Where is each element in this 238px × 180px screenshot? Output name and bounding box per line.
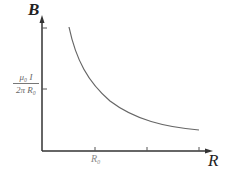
y-axis-arrow-icon	[40, 15, 45, 23]
x-tick-label-r0: R₀	[91, 153, 101, 164]
y-axis-label: B	[28, 0, 39, 20]
y-tick-label: μ₀ I 2π R₀	[13, 72, 39, 95]
y-tick-denominator: 2π R₀	[13, 84, 39, 95]
y-tick-numerator: μ₀ I	[13, 72, 39, 84]
curve-b-vs-r	[69, 27, 199, 130]
x-axis-label: R	[208, 151, 218, 171]
